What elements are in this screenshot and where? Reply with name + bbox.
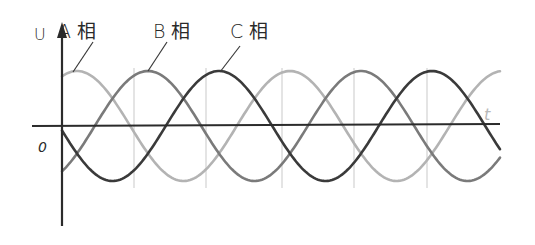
phase-b-label: B 相 [153, 20, 190, 42]
phase-labels: A 相 B 相 C 相 [58, 20, 268, 72]
phase-b-leader [148, 42, 167, 71]
phase-a-label: A 相 [58, 20, 96, 42]
x-axis-label: t [484, 105, 491, 124]
vertical-gridlines [134, 68, 427, 188]
three-phase-diagram: U 0 t A 相 B 相 C 相 [0, 0, 535, 245]
origin-label: 0 [38, 139, 47, 155]
y-axis-label: U [34, 25, 46, 44]
phase-a-leader [73, 42, 93, 72]
phase-c-leader [220, 46, 240, 72]
time-axis [32, 124, 500, 126]
phase-c-label: C 相 [230, 20, 268, 42]
